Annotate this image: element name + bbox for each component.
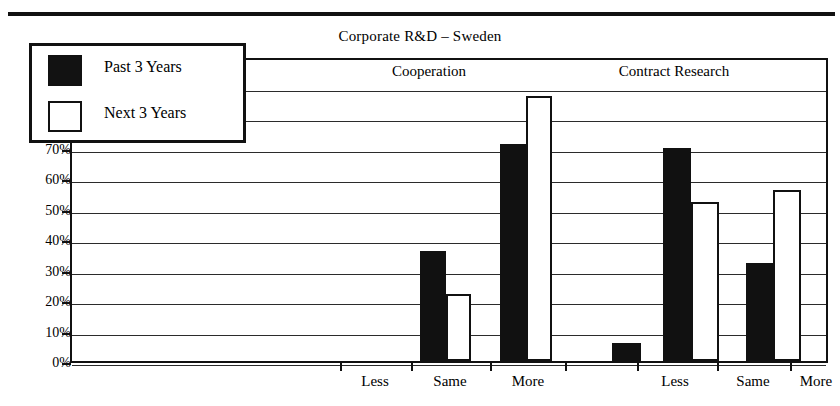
x-axis-tick-mark — [490, 363, 492, 371]
x-axis-tick-label: Less — [361, 373, 389, 390]
gridline — [72, 152, 826, 153]
legend-swatch-hollow-icon — [48, 101, 82, 132]
bar — [446, 294, 471, 361]
x-axis-tick-label: More — [512, 373, 545, 390]
bar — [746, 263, 773, 361]
group-header-label: Cooperation — [319, 63, 539, 80]
x-axis: LessSameMoreLessSameMore — [70, 363, 828, 406]
x-axis-tick-mark — [411, 363, 413, 371]
chart-legend: Past 3 Years Next 3 Years — [29, 43, 246, 143]
legend-entry-next-3-years: Next 3 Years — [32, 96, 243, 140]
bar — [526, 96, 552, 361]
group-header-label: Contract Research — [564, 63, 784, 80]
legend-label-past: Past 3 Years — [104, 58, 182, 76]
x-axis-tick-label: Same — [433, 373, 466, 390]
bar — [612, 343, 641, 361]
bar — [500, 144, 526, 361]
x-axis-tick-label: Less — [661, 373, 689, 390]
x-axis-tick-mark — [340, 363, 342, 371]
x-axis-tick-mark — [565, 363, 567, 371]
figure-container: Corporate R&D – Sweden 100%90%80%70%60%5… — [0, 0, 840, 406]
bar — [691, 202, 719, 361]
x-axis-tick-mark — [790, 363, 792, 371]
bar — [420, 251, 446, 361]
top-horizontal-rule — [8, 12, 835, 16]
legend-label-next: Next 3 Years — [104, 104, 186, 122]
x-axis-tick-mark — [717, 363, 719, 371]
x-axis-tick-label: Same — [736, 373, 769, 390]
legend-swatch-filled-icon — [48, 55, 82, 86]
gridline — [72, 182, 826, 183]
x-axis-tick-mark — [637, 363, 639, 371]
bar — [773, 190, 801, 361]
bar — [663, 148, 691, 362]
x-axis-tick-label: More — [800, 373, 833, 390]
legend-entry-past-3-years: Past 3 Years — [32, 50, 243, 94]
